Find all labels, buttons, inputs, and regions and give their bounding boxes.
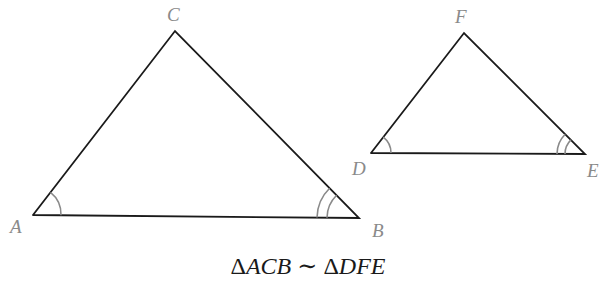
triangle-dfe-edges xyxy=(371,33,585,154)
vertex-label-d: D xyxy=(351,158,366,179)
triangle-name-2: DFE xyxy=(339,253,386,279)
angle-mark-b-inner xyxy=(327,195,337,217)
angle-mark-e-inner xyxy=(565,140,571,154)
triangle-acb: A C B xyxy=(8,4,384,241)
vertex-label-b: B xyxy=(372,220,384,241)
vertex-label-a: A xyxy=(8,216,22,237)
vertex-label-e: E xyxy=(586,160,599,181)
angle-mark-a xyxy=(51,192,62,215)
delta-symbol-2: Δ xyxy=(323,253,338,279)
similarity-caption: ΔACB ∼ ΔDFE xyxy=(0,252,616,280)
triangle-dfe: D F E xyxy=(351,6,599,181)
vertex-label-f: F xyxy=(454,6,467,27)
angle-mark-e-outer xyxy=(557,134,565,154)
vertex-label-c: C xyxy=(167,4,180,25)
triangle-name-1: ACB xyxy=(246,253,291,279)
triangle-acb-edges xyxy=(33,31,359,218)
triangles-figure: A C B D F E xyxy=(0,0,616,288)
delta-symbol-1: Δ xyxy=(231,253,246,279)
angle-mark-d xyxy=(383,137,391,153)
diagram-canvas: A C B D F E ΔACB ∼ ΔDFE xyxy=(0,0,616,288)
similar-symbol: ∼ xyxy=(291,253,323,279)
